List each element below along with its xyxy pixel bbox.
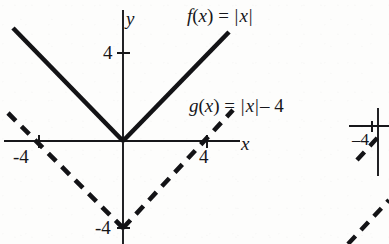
cropped-dashed-branch-lower xyxy=(348,200,389,244)
graph-canvas xyxy=(0,0,389,244)
curve-g-right-branch xyxy=(123,110,233,228)
curve-f-right-branch xyxy=(123,32,229,141)
function-label-f-bar-right: | xyxy=(248,5,254,26)
y-axis-label: y xyxy=(126,9,134,28)
curve-g-absolute-value-shifted xyxy=(8,110,233,228)
cropped-figure-tick-label: –4 xyxy=(352,131,369,148)
curve-f-absolute-value xyxy=(13,28,229,141)
x-tick-label-positive-4: 4 xyxy=(199,147,209,166)
function-label-g-equals: = xyxy=(224,95,235,116)
function-label-g-name: g xyxy=(189,95,199,116)
function-label-g-close-paren: ) xyxy=(213,95,219,116)
function-label-g: g(x) = |x|– 4 xyxy=(189,96,284,115)
function-label-f-equals: = xyxy=(218,5,229,26)
axes-group xyxy=(4,10,240,244)
function-label-f-inner: x xyxy=(239,5,247,26)
function-label-f: f(x) = |x| xyxy=(187,6,254,25)
function-label-f-close-paren: ) xyxy=(207,5,213,26)
cropped-figure-group xyxy=(348,108,389,244)
function-label-g-arg: x xyxy=(205,95,213,116)
curve-g-left-branch xyxy=(8,113,123,228)
x-axis-label: x xyxy=(241,134,249,153)
function-label-f-arg: x xyxy=(199,5,207,26)
function-label-g-offset: – 4 xyxy=(260,95,284,116)
function-label-g-inner: x xyxy=(246,95,254,116)
y-tick-label-negative-4: -4 xyxy=(95,218,111,237)
y-tick-label-positive-4: 4 xyxy=(103,43,113,62)
math-figure: y x 4 -4 -4 4 f(x) = |x| g(x) = |x|– 4 –… xyxy=(0,0,389,244)
x-tick-label-negative-4: -4 xyxy=(13,147,29,166)
